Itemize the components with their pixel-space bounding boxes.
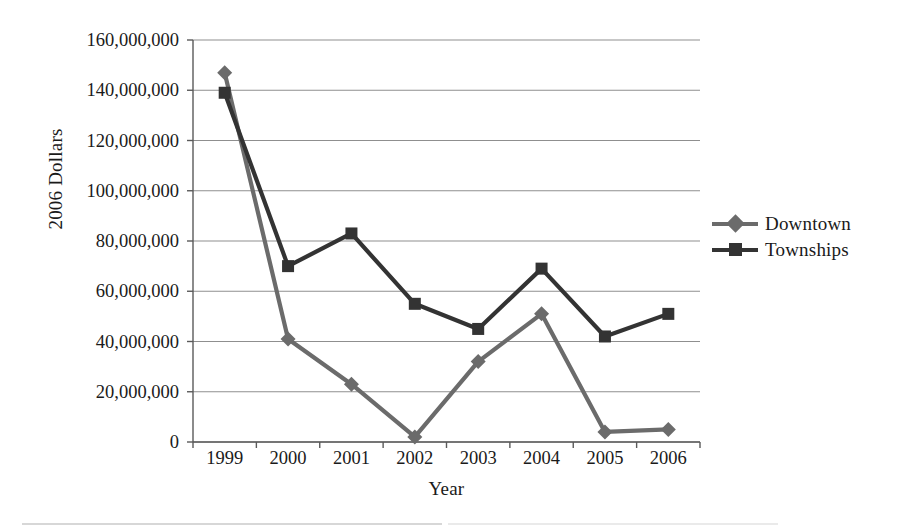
data-point-marker — [661, 422, 676, 437]
line-chart: 2006 Dollars Year 020,000,00040,000,0006… — [0, 0, 909, 532]
legend-label-townships: Townships — [758, 239, 849, 261]
data-point-marker — [282, 260, 294, 272]
legend-swatch-downtown — [712, 214, 758, 234]
data-point-marker — [345, 227, 357, 239]
data-point-marker — [536, 263, 548, 275]
legend-label-downtown: Downtown — [758, 213, 851, 235]
data-point-marker — [599, 330, 611, 342]
data-point-marker — [409, 298, 421, 310]
data-point-marker — [472, 323, 484, 335]
legend-swatch-townships — [712, 240, 758, 260]
series-line — [225, 73, 669, 437]
data-point-marker — [662, 308, 674, 320]
data-point-marker — [217, 65, 232, 80]
legend-item-downtown: Downtown — [712, 211, 851, 237]
data-point-marker — [597, 424, 612, 439]
series-line — [225, 93, 669, 337]
scan-artifact-line-secondary — [448, 523, 778, 525]
plot-area — [0, 0, 909, 532]
chart-legend: Downtown Townships — [712, 211, 851, 263]
scan-artifact-line — [22, 523, 442, 525]
data-point-marker — [219, 87, 231, 99]
legend-item-townships: Townships — [712, 237, 851, 263]
series-townships — [219, 87, 675, 343]
